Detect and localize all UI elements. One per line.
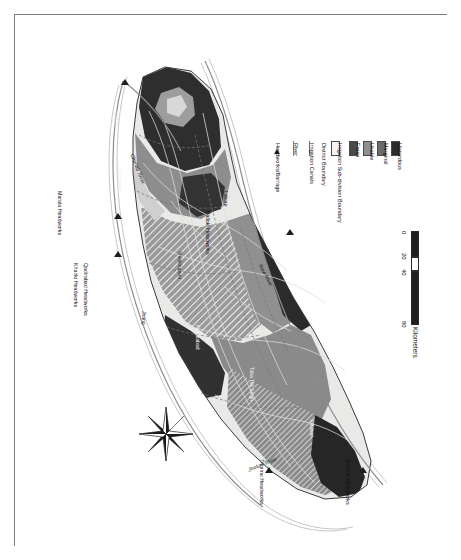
legend-label-subdivision-boundary: Irrigation Sub-division Boundary <box>337 143 343 223</box>
legend-label-fresh: Fresh <box>355 143 361 157</box>
map-label-qadirabad-headworks: Qadirabad Headworks <box>83 263 89 316</box>
map-label-lahore: Lahore <box>223 191 229 207</box>
scalebar-tick-20: 20 <box>401 253 407 260</box>
map-label-sheikhupura: Sheikhupura <box>177 251 183 279</box>
legend-label-district-boundary: District Boundary <box>321 143 327 186</box>
legend-label-marginal: Marginal <box>383 143 389 165</box>
map-label-sialkot: Sialkot <box>113 111 119 126</box>
scalebar-segment-3 <box>411 271 419 325</box>
scalebar-title: Kilometers <box>412 327 419 358</box>
map-label-balloki-headworks: Balloki Headworks <box>205 211 211 255</box>
map-composition: Marala Headworks Khanki Headworks Qadira… <box>15 15 448 547</box>
map-label-khanki-headworks: Khanki Headworks <box>73 263 79 307</box>
map-legend: Headworks/Barrage River Irrigation Canal… <box>273 71 393 231</box>
map-label-marala-headworks: Marala Headworks <box>57 191 63 235</box>
scalebar-tick-80: 80 <box>401 321 407 328</box>
scalebar-segment-1 <box>411 231 419 257</box>
legend-label-usable: Usable <box>369 143 375 160</box>
scalebar-tick-0: 0 <box>401 231 407 234</box>
north-arrow-icon <box>135 403 197 465</box>
map-label-faisalabad: Faisalabad <box>195 325 201 349</box>
legend-label-hazardous: Hazardous <box>397 143 403 170</box>
map-label-jhang: Jhang <box>141 311 147 325</box>
map-label-toba-tek-singh: Toba Tek Singh <box>249 367 255 401</box>
map-label-sahiwal: Sahiwal <box>309 419 315 437</box>
legend-label-headworks: Headworks/Barrage <box>275 143 281 192</box>
figure-frame: Marala Headworks Khanki Headworks Qadira… <box>14 14 447 546</box>
legend-label-river: River <box>293 143 299 156</box>
scalebar-tick-40: 40 <box>401 269 407 276</box>
map-label-sidhnai-headworks: Sidhnai Headworks <box>345 459 351 505</box>
map-label-gujranwala: Gujranwala <box>117 167 123 192</box>
figure-root: Marala Headworks Khanki Headworks Qadira… <box>0 0 461 560</box>
legend-label-irrigation-canals: Irrigation Canals <box>309 143 315 184</box>
scalebar-segment-2 <box>411 257 419 271</box>
